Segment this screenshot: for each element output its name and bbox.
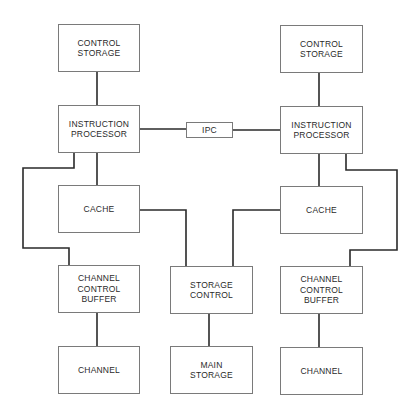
channel-left-box: CHANNEL <box>58 346 140 394</box>
instruction-processor-left-label: INSTRUCTION PROCESSOR <box>69 119 129 140</box>
channel-right-label: CHANNEL <box>300 366 342 377</box>
ipc-box: IPC <box>186 122 233 138</box>
channel-control-buffer-right-box: CHANNEL CONTROL BUFFER <box>280 266 363 314</box>
system-block-diagram: CONTROL STORAGE INSTRUCTION PROCESSOR CA… <box>0 0 419 417</box>
edge-cache-right-to-storage-control <box>233 210 280 266</box>
cache-left-box: CACHE <box>58 185 140 233</box>
storage-control-box: STORAGE CONTROL <box>170 266 253 314</box>
ipc-label: IPC <box>202 125 217 136</box>
control-storage-right-label: CONTROL STORAGE <box>300 39 343 60</box>
control-storage-left-box: CONTROL STORAGE <box>58 24 140 72</box>
storage-control-label: STORAGE CONTROL <box>190 280 233 301</box>
control-storage-left-label: CONTROL STORAGE <box>78 38 121 59</box>
instruction-processor-right-box: INSTRUCTION PROCESSOR <box>280 106 363 154</box>
cache-right-label: CACHE <box>306 205 337 216</box>
instruction-processor-right-label: INSTRUCTION PROCESSOR <box>291 120 351 141</box>
channel-right-box: CHANNEL <box>280 347 363 395</box>
control-storage-right-box: CONTROL STORAGE <box>280 25 363 73</box>
main-storage-box: MAIN STORAGE <box>170 346 253 394</box>
channel-control-buffer-left-label: CHANNEL CONTROL BUFFER <box>78 273 121 305</box>
channel-control-buffer-left-box: CHANNEL CONTROL BUFFER <box>58 265 140 313</box>
cache-right-box: CACHE <box>280 186 363 234</box>
edge-cache-left-to-storage-control <box>140 210 186 266</box>
channel-control-buffer-right-label: CHANNEL CONTROL BUFFER <box>300 274 343 306</box>
cache-left-label: CACHE <box>84 204 115 215</box>
main-storage-label: MAIN STORAGE <box>190 360 233 381</box>
channel-left-label: CHANNEL <box>78 365 120 376</box>
instruction-processor-left-box: INSTRUCTION PROCESSOR <box>58 105 140 153</box>
